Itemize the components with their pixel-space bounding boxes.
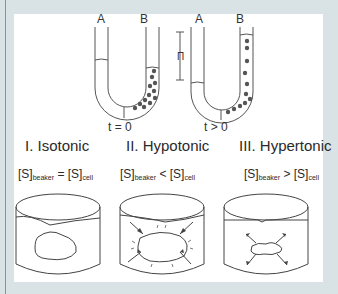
arm-a-label-t1: A <box>195 12 203 26</box>
beaker-hypertonic <box>224 194 308 274</box>
arrowheads-inward <box>137 228 186 253</box>
title-hypotonic: II. Hypotonic <box>126 137 209 154</box>
cell-normal <box>35 232 76 260</box>
title-hypertonic: III. Hypertonic <box>239 137 332 154</box>
caption-t0: t = 0 <box>108 120 132 134</box>
equation-hypertonic: [S]beaker > [S]cell <box>244 167 319 181</box>
solute-particles-t1 <box>226 39 252 114</box>
equation-hypotonic: [S]beaker < [S]cell <box>120 167 195 181</box>
pressure-label: Π <box>177 51 184 62</box>
u-tube-t1 <box>176 27 253 123</box>
arm-b-label-t1: B <box>236 12 244 26</box>
caption-t1: t > 0 <box>204 120 228 134</box>
arm-a-label-t0: A <box>97 12 105 26</box>
title-isotonic: I. Isotonic <box>25 137 89 154</box>
u-tube-t0 <box>95 27 159 120</box>
arm-b-label-t0: B <box>140 12 148 26</box>
beaker-hypotonic <box>120 194 204 274</box>
beaker-isotonic <box>16 194 100 274</box>
equation-isotonic: [S]beaker = [S]cell <box>18 167 93 181</box>
cell-swollen <box>138 232 187 261</box>
cell-shrunken <box>251 243 282 255</box>
